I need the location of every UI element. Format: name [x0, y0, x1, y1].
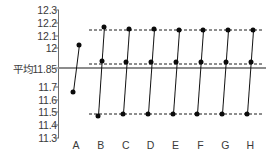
x-axis-tick-label: G	[221, 139, 229, 151]
y-axis-tick-mark	[54, 112, 59, 113]
data-point-marker	[151, 27, 156, 32]
data-point-marker	[101, 24, 106, 29]
data-point-marker	[124, 60, 129, 65]
x-axis-tick-label: B	[97, 139, 104, 151]
series-segment	[197, 30, 204, 113]
data-point-marker	[149, 60, 154, 65]
x-axis-tick-label: D	[147, 139, 155, 151]
data-point-marker	[70, 89, 75, 94]
data-point-marker	[248, 60, 253, 65]
data-point-marker	[199, 60, 204, 65]
data-point-marker	[120, 111, 125, 116]
series-segment	[173, 30, 180, 113]
y-axis-tick-mark	[54, 35, 59, 36]
chart-container: 12.312.212.112平均11.8511.711.611.511.411.…	[0, 0, 271, 165]
data-point-marker	[145, 111, 150, 116]
y-axis-tick-mark	[54, 48, 59, 49]
data-point-marker	[170, 111, 175, 116]
data-point-marker	[99, 59, 104, 64]
y-axis-line	[58, 10, 59, 138]
x-axis-tick-label: A	[72, 139, 79, 151]
data-point-marker	[76, 42, 81, 47]
data-point-marker	[195, 111, 200, 116]
data-point-marker	[226, 28, 231, 33]
data-point-marker	[176, 28, 181, 33]
x-axis-tick-label: C	[122, 139, 130, 151]
x-axis-tick-label: E	[172, 139, 179, 151]
x-axis-tick-label: F	[197, 139, 203, 151]
y-axis-tick-label: 平均11.85	[13, 60, 57, 75]
data-point-marker	[224, 60, 229, 65]
data-point-marker	[220, 111, 225, 116]
data-point-marker	[126, 27, 131, 32]
data-point-marker	[201, 28, 206, 33]
series-segment	[148, 29, 155, 114]
y-axis-tick-mark	[54, 10, 59, 11]
data-point-marker	[174, 60, 179, 65]
y-axis-tick-mark	[54, 22, 59, 23]
average-line	[58, 67, 266, 69]
x-axis-tick-label: H	[247, 139, 255, 151]
x-axis-label-group: ABCDEFGH	[58, 138, 266, 158]
series-segment	[98, 27, 105, 117]
y-axis-tick-mark	[54, 125, 59, 126]
data-point-marker	[95, 114, 100, 119]
series-segment	[222, 30, 229, 113]
series-segment	[123, 29, 130, 114]
plot-area	[58, 10, 266, 138]
reference-line	[89, 113, 262, 114]
y-axis-tick-mark	[54, 86, 59, 87]
series-segment	[247, 30, 254, 113]
data-point-marker	[251, 28, 256, 33]
data-point-marker	[245, 111, 250, 116]
y-axis-label-group: 12.312.212.112平均11.8511.711.611.511.411.…	[0, 0, 57, 165]
y-axis-tick-mark	[54, 99, 59, 100]
